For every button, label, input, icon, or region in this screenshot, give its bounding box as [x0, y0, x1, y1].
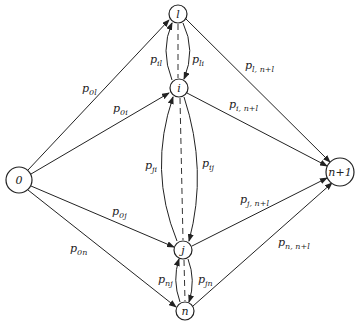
node-l: l [169, 5, 187, 23]
svg-text:0: 0 [16, 174, 23, 187]
node-n: n [176, 302, 194, 320]
label-p0n: p0n [70, 242, 87, 257]
label-pnj: pnj [158, 273, 173, 288]
node-j: j [174, 241, 192, 259]
edge-i-l [166, 23, 172, 80]
dashed-i-j [180, 98, 183, 240]
node-sink: n+1 [326, 158, 354, 186]
edge-l-sink [186, 19, 330, 162]
edge-0-j [31, 186, 174, 247]
label-pij: pij [202, 157, 215, 172]
node-source: 0 [6, 167, 32, 193]
svg-text:n+1: n+1 [328, 166, 351, 179]
edge-l-i [183, 23, 190, 79]
edge-j-sink [192, 178, 327, 246]
label-pj-n1: pj, n+l [240, 193, 269, 208]
label-p0l: p0l [82, 82, 97, 97]
network-diagram: 0 l i j n n+1 p0l p0i p0j p0n pil pli pj… [0, 0, 361, 326]
label-pil: pil [150, 53, 163, 68]
svg-text:i: i [177, 82, 181, 95]
svg-text:n: n [181, 305, 188, 318]
label-p0j: p0j [112, 205, 127, 220]
label-p0i: p0i [113, 102, 128, 117]
edge-i-j [184, 97, 197, 241]
label-pi-n1: pi, n+l [229, 98, 259, 113]
label-pli: pli [192, 53, 205, 68]
edge-0-l [28, 20, 169, 170]
edge-j-n [188, 259, 192, 302]
edge-j-i [161, 97, 177, 241]
dashed-j-n [184, 260, 185, 301]
edge-0-n [28, 190, 176, 307]
node-i: i [170, 79, 188, 97]
label-pjn: pjn [198, 273, 213, 288]
label-pn-n1: pn, n+l [278, 236, 310, 251]
label-pl-n1: pl, n+l [245, 59, 275, 74]
svg-text:l: l [176, 8, 180, 21]
label-pji: pji [145, 159, 158, 174]
edge-n-j [176, 259, 180, 302]
